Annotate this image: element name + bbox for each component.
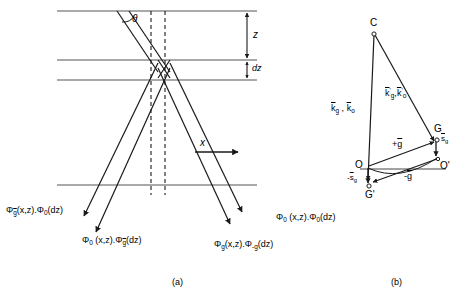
vector-label-plus-g: +g <box>392 140 402 149</box>
vector-label-s-g: sg <box>441 135 448 145</box>
beam-out-right-1 <box>158 68 230 224</box>
x-axis-label: x <box>200 138 205 148</box>
dz-dimension-label: dz <box>252 64 262 73</box>
panel-b-caption: (b) <box>391 278 402 287</box>
theta-angle-label: θ <box>132 14 137 24</box>
node-G <box>435 138 439 142</box>
vector-k-g-k-o <box>368 35 374 180</box>
vector-label-minus-s-g: -sg <box>347 174 357 184</box>
point-label-O: O <box>355 160 363 170</box>
vector-label-minus-g: -g <box>404 172 412 181</box>
wave-label-phig-phi-minusg: Φg(x,z).Φ-g(dz) <box>214 240 273 251</box>
vector-label-k-g-k-o: kg , ko <box>331 104 355 115</box>
figure-container: θ z dz x Φg(x,z).Φ0(dz) Φ0 (x,z).Φg(dz) … <box>0 0 457 298</box>
beam-out-right-2 <box>170 63 242 212</box>
z-dimension-label: z <box>253 30 258 40</box>
vector-label-k-prime-g-k-prime-o: k'g,k'o <box>385 88 406 99</box>
node-G-prime <box>367 184 371 188</box>
point-label-G: G <box>434 124 442 134</box>
incident-beams <box>117 11 170 72</box>
panel-a-group <box>57 11 257 232</box>
panel-a-caption: (a) <box>172 278 183 287</box>
point-label-C: C <box>370 18 377 28</box>
outgoing-beams <box>84 63 242 232</box>
beam-out-left-2 <box>96 68 170 232</box>
point-label-O-prime: O' <box>440 161 450 171</box>
figure-drawing <box>0 0 457 298</box>
wave-label-phi-gbar-phi0: Φg(x,z).Φ0(dz) <box>6 206 63 217</box>
wave-label-phi0-phi0: Φ0 (x,z).Φ0(dz) <box>276 213 336 224</box>
node-markers <box>367 32 440 188</box>
incident-ray-1 <box>117 11 158 72</box>
dashed-reference-lines <box>151 11 165 195</box>
point-label-G-prime: G' <box>365 190 375 200</box>
panel-b-group <box>360 32 446 188</box>
wave-label-phi0-phi-gbar: Φ0 (x,z).Φg(dz) <box>82 236 142 247</box>
beam-out-left-1 <box>84 63 158 216</box>
node-C <box>372 32 376 36</box>
